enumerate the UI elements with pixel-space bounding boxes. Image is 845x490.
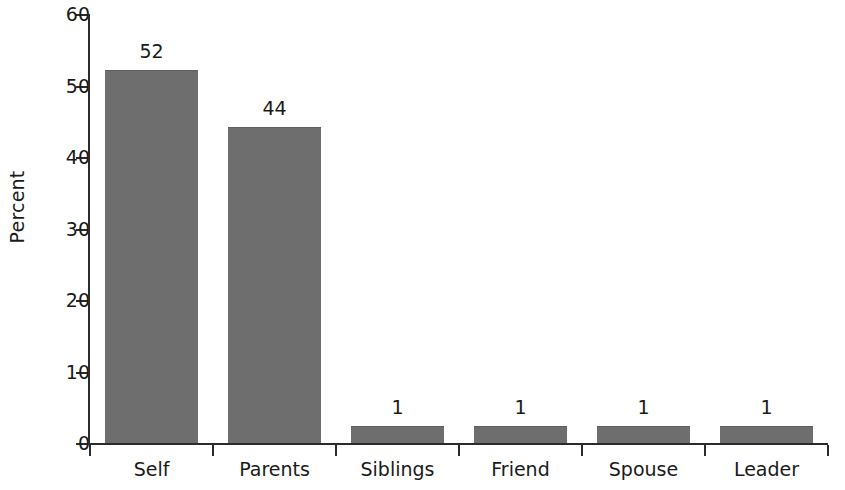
y-tick-label: 20 (16, 289, 90, 311)
bar-chart-figure: Percent 0102030405060 52441111 SelfParen… (0, 0, 845, 490)
bar (474, 426, 567, 443)
x-axis-label-self: Self (134, 458, 170, 480)
bar (351, 426, 444, 443)
bar-value-label: 44 (262, 97, 286, 119)
x-tick-mark (89, 445, 91, 456)
bar-value-label: 52 (139, 40, 163, 62)
x-axis-label-leader: Leader (734, 458, 799, 480)
y-tick-label: 30 (16, 218, 90, 240)
y-tick-label: 60 (16, 3, 90, 25)
bar (228, 127, 321, 443)
y-tick-label: 50 (16, 75, 90, 97)
bar (720, 426, 813, 443)
x-axis-label-siblings: Siblings (361, 458, 435, 480)
x-tick-mark (212, 445, 214, 456)
bar (597, 426, 690, 443)
bar-value-label: 1 (514, 396, 526, 418)
y-tick-label: 40 (16, 146, 90, 168)
x-axis-label-spouse: Spouse (609, 458, 678, 480)
x-axis-label-parents: Parents (239, 458, 310, 480)
y-tick-label: 10 (16, 361, 90, 383)
x-tick-mark (704, 445, 706, 456)
x-tick-mark (458, 445, 460, 456)
bar (105, 70, 198, 443)
y-tick-label: 0 (16, 432, 90, 454)
plot-area (90, 14, 828, 443)
x-tick-mark (827, 445, 829, 456)
x-tick-mark (581, 445, 583, 456)
bar-value-label: 1 (760, 396, 772, 418)
bar-value-label: 1 (637, 396, 649, 418)
x-tick-mark (335, 445, 337, 456)
bar-value-label: 1 (391, 396, 403, 418)
y-axis-title: Percent (6, 157, 28, 257)
x-axis-label-friend: Friend (491, 458, 549, 480)
